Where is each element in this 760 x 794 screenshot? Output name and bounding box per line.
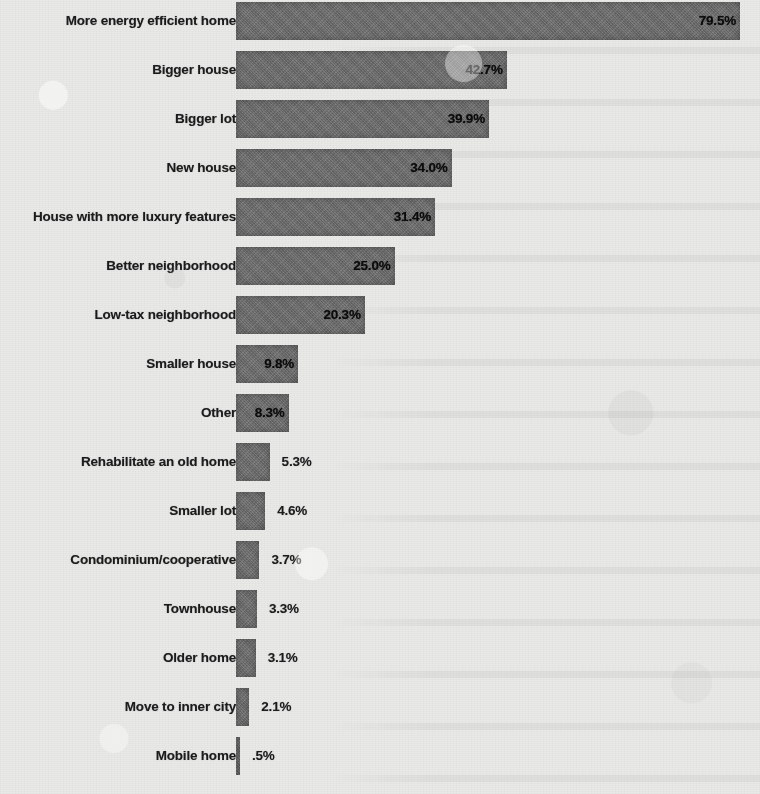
category-label: Low-tax neighborhood	[95, 296, 236, 334]
category-label: Better neighborhood	[106, 247, 236, 285]
bar-value-label: 4.6%	[277, 492, 307, 530]
bar-row: Other8.3%	[0, 394, 760, 432]
category-label: Mobile home	[156, 737, 236, 775]
bar	[236, 492, 265, 530]
category-label: Smaller lot	[169, 492, 236, 530]
bar-row: More energy efficient home79.5%	[0, 2, 760, 40]
bar	[236, 737, 240, 775]
bar-row: Low-tax neighborhood20.3%	[0, 296, 760, 334]
bar-value-label: 2.1%	[261, 688, 291, 726]
bar-value-label: 8.3%	[243, 394, 285, 432]
category-label: More energy efficient home	[66, 2, 236, 40]
bar-row: Better neighborhood25.0%	[0, 247, 760, 285]
category-label: Older home	[163, 639, 236, 677]
category-label: Rehabilitate an old home	[81, 443, 236, 481]
bar-value-label: 79.5%	[694, 2, 736, 40]
bar-row: Condominium/cooperative3.7%	[0, 541, 760, 579]
bar-value-label: 20.3%	[319, 296, 361, 334]
bar-row: Move to inner city2.1%	[0, 688, 760, 726]
bar	[236, 2, 740, 40]
bar-row: House with more luxury features31.4%	[0, 198, 760, 236]
bar-row: New house34.0%	[0, 149, 760, 187]
category-label: Townhouse	[164, 590, 236, 628]
category-label: Bigger lot	[175, 100, 236, 138]
bar-value-label: 3.3%	[269, 590, 299, 628]
category-label: Other	[201, 394, 236, 432]
bar-row: Bigger house42.7%	[0, 51, 760, 89]
bar-row: Rehabilitate an old home5.3%	[0, 443, 760, 481]
bar	[236, 443, 270, 481]
bar-row: Bigger lot39.9%	[0, 100, 760, 138]
bar-row: Smaller house9.8%	[0, 345, 760, 383]
bar-row: Townhouse3.3%	[0, 590, 760, 628]
bar-value-label: 31.4%	[389, 198, 431, 236]
bar-value-label: 3.7%	[271, 541, 301, 579]
bar-value-label: 5.3%	[282, 443, 312, 481]
category-label: Bigger house	[152, 51, 236, 89]
bar-value-label: 34.0%	[406, 149, 448, 187]
bar-value-label: 42.7%	[461, 51, 503, 89]
bar	[236, 688, 249, 726]
horizontal-bar-chart: More energy efficient home79.5%Bigger ho…	[0, 0, 760, 794]
category-label: New house	[167, 149, 236, 187]
bar	[236, 590, 257, 628]
bar	[236, 541, 259, 579]
bar	[236, 639, 256, 677]
bar-value-label: 39.9%	[443, 100, 485, 138]
category-label: Smaller house	[146, 345, 236, 383]
bar-value-label: 3.1%	[268, 639, 298, 677]
bar-value-label: 9.8%	[252, 345, 294, 383]
bar-row: Smaller lot4.6%	[0, 492, 760, 530]
bar-row: Older home3.1%	[0, 639, 760, 677]
bar-row: Mobile home.5%	[0, 737, 760, 775]
category-label: Move to inner city	[125, 688, 236, 726]
category-label: Condominium/cooperative	[70, 541, 236, 579]
bar-value-label: 25.0%	[349, 247, 391, 285]
category-label: House with more luxury features	[33, 198, 236, 236]
bar-value-label: .5%	[252, 737, 275, 775]
